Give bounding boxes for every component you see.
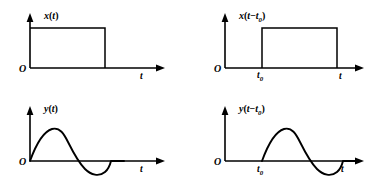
origin-label: O	[214, 157, 221, 167]
x-axis-label-t: t	[140, 72, 143, 82]
plot-shifted-input-signal	[195, 0, 389, 97]
y-axis-label-xt-shifted: x(t−t0)	[239, 11, 265, 24]
x-axis-arrow-icon	[355, 65, 364, 72]
plot-output-signal	[0, 98, 194, 195]
y-axis-label-xt: x(t)	[44, 11, 58, 21]
x-axis-arrow-icon	[156, 158, 165, 165]
panel-shifted-input-signal: x(t−t0) O t0 t	[195, 0, 389, 97]
x-axis-arrow-icon	[156, 65, 165, 72]
origin-label: O	[19, 157, 26, 167]
y-axis-arrow-icon	[27, 13, 34, 22]
y-axis-arrow-icon	[222, 13, 229, 22]
tick-label-t0: t0	[257, 71, 263, 83]
origin-label: O	[214, 64, 221, 74]
y-axis-arrow-icon	[222, 106, 229, 115]
rect-pulse-waveform	[30, 28, 105, 68]
origin-label: O	[19, 64, 26, 74]
panel-input-signal: x(t) O t	[0, 0, 194, 97]
y-axis-label-yt-shifted: y(t−t0)	[239, 104, 265, 117]
tick-label-t0: t0	[257, 165, 263, 177]
plot-input-signal	[0, 0, 194, 97]
panel-shifted-output-signal: y(t−t0) O t0 t	[195, 98, 389, 195]
x-axis-label-t: t	[341, 165, 344, 175]
response-waveform	[30, 129, 124, 175]
y-axis-label-yt: y(t)	[44, 104, 58, 114]
rect-pulse-waveform	[262, 28, 337, 68]
signal-time-shift-figure: x(t) O t x(t−t0) O t0 t y(	[0, 0, 389, 195]
x-axis-label-t: t	[140, 165, 143, 175]
plot-shifted-output-signal	[195, 98, 389, 195]
panel-output-signal: y(t) O t	[0, 98, 194, 195]
x-axis-label-t: t	[339, 72, 342, 82]
y-axis-arrow-icon	[27, 106, 34, 115]
